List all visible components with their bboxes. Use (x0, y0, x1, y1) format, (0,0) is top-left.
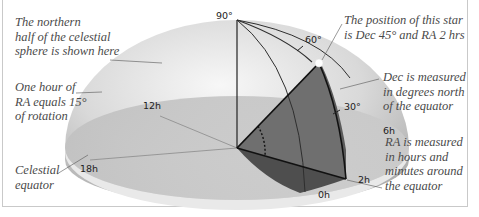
star-marker (315, 59, 323, 67)
caption-celestial-equator: Celestial equator (15, 163, 59, 192)
label-ra-2h: 2h (358, 174, 370, 185)
label-ra-12h: 12h (143, 100, 161, 111)
caption-ra-measured: RA is measured in hours and minutes arou… (385, 135, 463, 193)
caption-northern-half: The northern half of the celestial spher… (15, 15, 119, 59)
label-ra-18h: 18h (80, 163, 98, 174)
label-dec-90: 90° (216, 10, 233, 21)
label-ra-6h: 6h (383, 125, 395, 136)
label-dec-30: 30° (344, 101, 361, 112)
caption-ra-hour: One hour of RA equals 15° of rotation (15, 80, 86, 124)
caption-star-position: The position of this star is Dec 45° and… (344, 13, 465, 42)
caption-dec-measured: Dec is measured in degrees north of the … (383, 70, 466, 114)
label-dec-60: 60° (305, 34, 322, 45)
label-ra-0h: 0h (318, 189, 330, 200)
